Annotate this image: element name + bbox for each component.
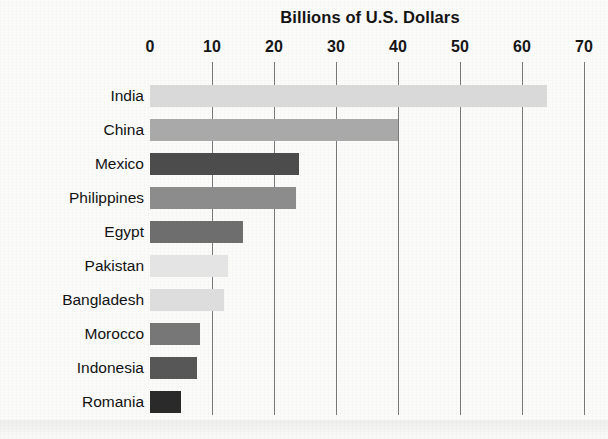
category-label-mexico: Mexico [0,154,144,174]
bar-row: Romania [0,391,608,413]
bar-row: India [0,85,608,107]
bar-row: China [0,119,608,141]
plot-area: IndiaChinaMexicoPhilippinesEgyptPakistan… [0,62,608,416]
category-label-philippines: Philippines [0,188,144,208]
bar-chart-figure: Billions of U.S. Dollars 010203040506070… [0,0,608,439]
bars-group: IndiaChinaMexicoPhilippinesEgyptPakistan… [0,62,608,416]
page-edge-shadow [0,420,608,439]
x-tick-label-70: 70 [575,38,593,56]
category-label-egypt: Egypt [0,222,144,242]
bar-row: Mexico [0,153,608,175]
x-tick-label-30: 30 [327,38,345,56]
bar-row: Indonesia [0,357,608,379]
bar-romania [150,391,181,413]
category-label-china: China [0,120,144,140]
bar-india [150,85,547,107]
bar-row: Morocco [0,323,608,345]
x-tick-label-60: 60 [513,38,531,56]
bar-row: Philippines [0,187,608,209]
x-tick-label-40: 40 [389,38,407,56]
bar-egypt [150,221,243,243]
category-label-indonesia: Indonesia [0,358,144,378]
category-label-india: India [0,86,144,106]
x-tick-label-20: 20 [265,38,283,56]
category-label-bangladesh: Bangladesh [0,290,144,310]
bar-mexico [150,153,299,175]
category-label-pakistan: Pakistan [0,256,144,276]
bar-china [150,119,398,141]
bar-row: Egypt [0,221,608,243]
x-tick-label-10: 10 [203,38,221,56]
bar-morocco [150,323,200,345]
bar-row: Pakistan [0,255,608,277]
bar-row: Bangladesh [0,289,608,311]
bar-bangladesh [150,289,224,311]
category-label-morocco: Morocco [0,324,144,344]
category-label-romania: Romania [0,392,144,412]
bar-philippines [150,187,296,209]
chart-title: Billions of U.S. Dollars [150,8,590,27]
bar-pakistan [150,255,228,277]
x-tick-label-0: 0 [146,38,155,56]
x-tick-label-50: 50 [451,38,469,56]
bar-indonesia [150,357,197,379]
x-axis-tick-labels: 010203040506070 [0,38,608,60]
